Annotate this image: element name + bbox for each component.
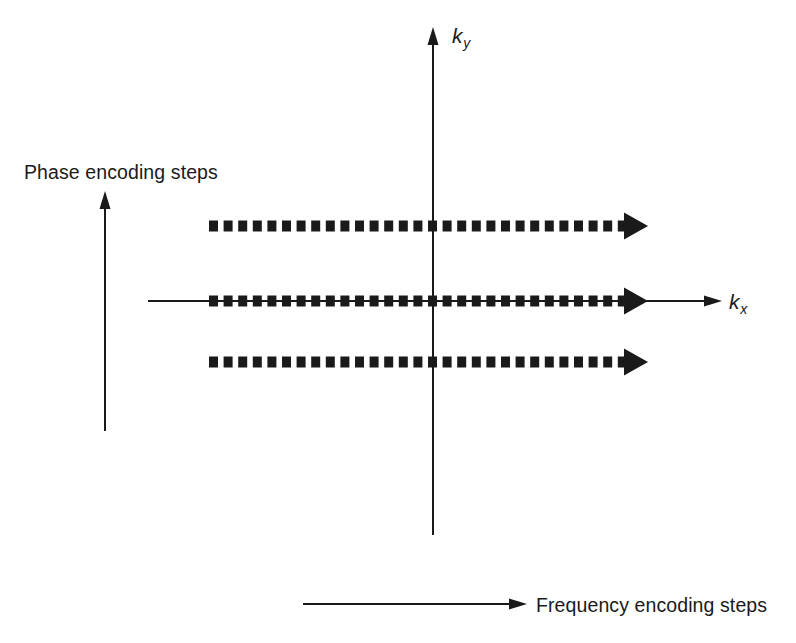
frequency-encoding-arrowhead-icon <box>509 599 527 610</box>
phase-encoding-arrow <box>100 191 111 431</box>
frequency-encoding-label: Frequency encoding steps <box>536 594 767 617</box>
kx-axis-label-base: k <box>729 290 740 313</box>
ky-axis <box>428 27 439 535</box>
trajectory-line-2 <box>209 288 648 315</box>
ky-axis-label-base: k <box>452 24 463 47</box>
trajectory-line-3 <box>209 349 648 376</box>
ky-axis-arrowhead-icon <box>428 27 439 45</box>
phase-encoding-label: Phase encoding steps <box>24 161 218 184</box>
kx-axis-label-subscript: x <box>740 301 747 317</box>
trajectory-line-1 <box>209 213 648 240</box>
frequency-encoding-arrow <box>303 599 527 610</box>
ky-axis-label: ky <box>452 24 470 48</box>
trajectory-line-1-arrowhead-icon <box>624 213 648 240</box>
kspace-trajectory-figure <box>0 0 796 643</box>
trajectory-line-3-arrowhead-icon <box>624 349 648 376</box>
diagram-canvas: ky kx Phase encoding steps Frequency enc… <box>0 0 796 643</box>
ky-axis-label-subscript: y <box>463 35 470 51</box>
trajectory-line-2-arrowhead-icon <box>624 288 648 315</box>
kx-axis-arrowhead-icon <box>704 296 722 307</box>
phase-encoding-arrowhead-icon <box>100 191 111 209</box>
kx-axis-label: kx <box>729 290 747 314</box>
